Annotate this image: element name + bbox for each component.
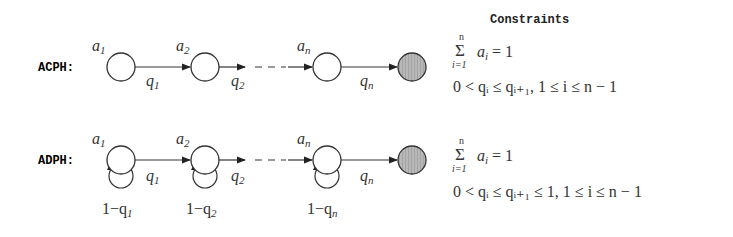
adph-order-constraint: 0 < qᵢ ≤ qᵢ₊₁ ≤ 1, 1 ≤ i ≤ n − 1	[453, 183, 642, 201]
adph-state-2	[191, 146, 219, 174]
acph-row: ACPH: a1 a2 an q1 q2 qn n Σ i=1 ai = 1 0…	[38, 31, 617, 96]
acph-absorbing-state	[398, 53, 426, 81]
adph-qn: qn	[360, 167, 374, 186]
acph-a2: a2	[176, 37, 190, 56]
acph-sigma: Σ	[455, 41, 465, 60]
adph-label: ADPH:	[38, 154, 74, 168]
acph-state-1	[107, 53, 135, 81]
acph-sum-bottom: i=1	[452, 59, 467, 70]
adph-state-n	[313, 146, 341, 174]
adph-an: an	[297, 130, 311, 149]
phase-type-diagram: Constraints ACPH: a1 a2 an q1 q2 qn n Σ …	[0, 0, 733, 237]
adph-sum-body: ai = 1	[477, 147, 513, 166]
acph-an: an	[297, 37, 311, 56]
adph-loop-label-2: 1−q2	[186, 200, 217, 219]
acph-order-constraint: 0 < qᵢ ≤ qᵢ₊₁, 1 ≤ i ≤ n − 1	[453, 78, 617, 96]
adph-sum-bottom: i=1	[452, 163, 467, 174]
acph-a1: a1	[92, 37, 106, 56]
acph-state-n	[313, 53, 341, 81]
adph-loop-label-n: 1−qn	[307, 200, 338, 219]
adph-loop-label-1: 1−q1	[102, 200, 133, 219]
adph-absorbing-state	[398, 146, 426, 174]
adph-state-1	[107, 146, 135, 174]
acph-label: ACPH:	[38, 61, 74, 75]
adph-a1: a1	[92, 130, 106, 149]
adph-q2: q2	[231, 167, 245, 186]
acph-state-2	[191, 53, 219, 81]
acph-sum-body: ai = 1	[477, 43, 513, 62]
acph-qn: qn	[360, 72, 374, 91]
acph-q2: q2	[231, 72, 245, 91]
acph-q1: q1	[146, 72, 160, 91]
adph-row: ADPH: a1 a2 an q1 q2 qn 1−q1 1−q2 1−qn n	[38, 130, 642, 219]
adph-sigma: Σ	[455, 145, 465, 164]
constraints-title: Constraints	[490, 13, 569, 27]
adph-a2: a2	[176, 130, 190, 149]
adph-q1: q1	[146, 167, 160, 186]
